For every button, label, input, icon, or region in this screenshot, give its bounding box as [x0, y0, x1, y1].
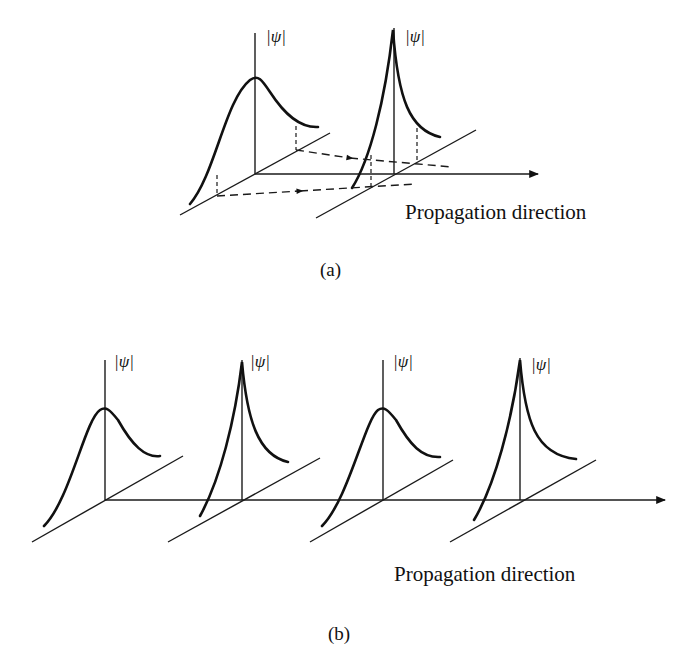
- psi-label-a1: |ψ|: [266, 27, 286, 47]
- caption-b: (b): [328, 623, 350, 645]
- sharp-pulse-b2: [200, 362, 288, 516]
- psi-label-b3: |ψ|: [393, 352, 413, 372]
- sharp-pulse-b4: [474, 360, 576, 520]
- axis-label-b: Propagation direction: [394, 562, 575, 587]
- psi-label-b2: |ψ|: [250, 352, 270, 372]
- transverse-axis-b3: [310, 460, 453, 542]
- psi-label-a2: |ψ|: [405, 27, 425, 47]
- broad-pulse-b1: [44, 408, 160, 526]
- broad-pulse-b3: [322, 408, 440, 526]
- caption-a: (a): [320, 259, 341, 281]
- figure-a: [180, 28, 538, 218]
- broad-pulse-a1: [190, 78, 318, 204]
- psi-label-b4: |ψ|: [531, 355, 551, 375]
- diagram-canvas: [0, 0, 678, 663]
- axis-label-a: Propagation direction: [405, 200, 586, 225]
- transverse-axis-b4: [450, 460, 596, 542]
- sharp-pulse-a2: [352, 30, 440, 188]
- figure-b: [32, 358, 665, 542]
- transverse-axis-b1: [32, 456, 183, 542]
- psi-label-b1: |ψ|: [114, 352, 134, 372]
